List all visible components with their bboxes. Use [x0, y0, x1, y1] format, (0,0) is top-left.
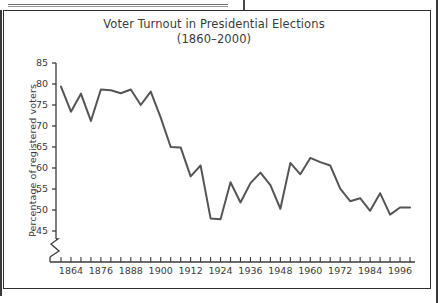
x-axis-tick-label: 1984	[358, 265, 382, 276]
y-axis-tick-label: 60	[36, 162, 48, 173]
screenshot-page: Voter Turnout in Presidential Elections …	[0, 0, 443, 303]
y-axis-tick-label: 80	[36, 78, 48, 89]
x-axis-tick-label: 1900	[149, 265, 173, 276]
line-chart: 4550556065707580851864187618881900191219…	[3, 10, 431, 289]
page-rule-top-secondary	[8, 6, 228, 7]
page-right-border	[436, 0, 438, 303]
y-axis-tick-label: 45	[36, 225, 48, 236]
x-axis-tick-label: 1936	[238, 265, 262, 276]
y-axis-break-symbol	[50, 239, 59, 257]
x-axis-tick-label: 1912	[179, 265, 203, 276]
data-series-line	[61, 87, 410, 220]
x-axis-tick-label: 1924	[208, 265, 232, 276]
x-axis-tick-label: 1876	[89, 265, 113, 276]
x-axis-tick-label: 1948	[268, 265, 292, 276]
y-axis-tick-label: 85	[36, 57, 48, 68]
y-axis-tick-label: 50	[36, 204, 48, 215]
page-rule-top	[8, 4, 228, 5]
y-axis-tick-label: 75	[36, 99, 48, 110]
page-left-border	[0, 10, 2, 296]
x-axis-tick-label: 1996	[388, 265, 412, 276]
y-axis-tick-label: 65	[36, 141, 48, 152]
y-axis-tick-label: 55	[36, 183, 48, 194]
x-axis-tick-label: 1864	[59, 265, 83, 276]
x-axis-tick-label: 1972	[328, 265, 352, 276]
y-axis-tick-label: 70	[36, 120, 48, 131]
x-axis-tick-label: 1960	[298, 265, 322, 276]
x-axis-tick-label: 1888	[119, 265, 143, 276]
